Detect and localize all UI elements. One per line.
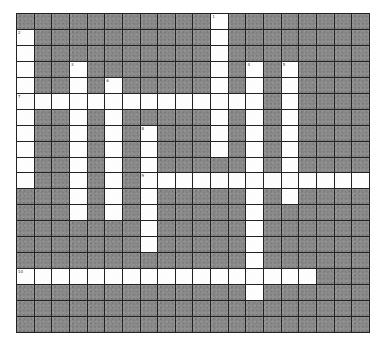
crossword-cell[interactable] bbox=[282, 158, 299, 173]
crossword-cell[interactable] bbox=[335, 173, 352, 188]
crossword-cell[interactable] bbox=[193, 94, 210, 109]
crossword-cell[interactable] bbox=[141, 237, 158, 252]
crossword-cell[interactable] bbox=[211, 142, 228, 157]
crossword-cell[interactable] bbox=[17, 126, 34, 141]
crossword-cell[interactable] bbox=[123, 94, 140, 109]
crossword-cell[interactable] bbox=[158, 173, 175, 188]
crossword-cell[interactable]: 4 bbox=[246, 62, 263, 77]
crossword-cell[interactable] bbox=[211, 110, 228, 125]
crossword-cell[interactable] bbox=[176, 94, 193, 109]
crossword-cell[interactable] bbox=[70, 189, 87, 204]
crossword-cell[interactable] bbox=[70, 158, 87, 173]
crossword-cell[interactable] bbox=[211, 269, 228, 284]
crossword-cell[interactable]: 7 bbox=[17, 94, 34, 109]
crossword-cell[interactable] bbox=[52, 269, 69, 284]
crossword-cell[interactable] bbox=[176, 173, 193, 188]
crossword-cell[interactable] bbox=[299, 173, 316, 188]
crossword-cell[interactable] bbox=[141, 158, 158, 173]
crossword-cell[interactable]: 10 bbox=[17, 269, 34, 284]
crossword-cell[interactable] bbox=[282, 269, 299, 284]
crossword-cell[interactable] bbox=[105, 189, 122, 204]
crossword-cell[interactable] bbox=[246, 189, 263, 204]
crossword-cell[interactable] bbox=[141, 221, 158, 236]
crossword-cell[interactable] bbox=[141, 269, 158, 284]
crossword-cell[interactable] bbox=[105, 94, 122, 109]
crossword-cell[interactable] bbox=[246, 78, 263, 93]
crossword-cell[interactable] bbox=[229, 173, 246, 188]
crossword-cell[interactable] bbox=[282, 189, 299, 204]
crossword-cell[interactable] bbox=[246, 221, 263, 236]
crossword-cell[interactable]: 3 bbox=[70, 62, 87, 77]
crossword-cell[interactable] bbox=[282, 126, 299, 141]
crossword-cell[interactable] bbox=[264, 269, 281, 284]
crossword-cell[interactable] bbox=[105, 110, 122, 125]
crossword-cell[interactable] bbox=[158, 94, 175, 109]
crossword-cell[interactable] bbox=[70, 205, 87, 220]
crossword-cell[interactable] bbox=[52, 94, 69, 109]
crossword-cell[interactable] bbox=[246, 173, 263, 188]
crossword-cell[interactable] bbox=[17, 158, 34, 173]
crossword-cell[interactable] bbox=[246, 142, 263, 157]
crossword-cell[interactable] bbox=[352, 173, 369, 188]
crossword-cell[interactable] bbox=[17, 173, 34, 188]
crossword-cell[interactable] bbox=[70, 94, 87, 109]
crossword-cell[interactable] bbox=[246, 285, 263, 300]
crossword-cell[interactable] bbox=[246, 126, 263, 141]
crossword-cell[interactable] bbox=[141, 189, 158, 204]
crossword-cell[interactable] bbox=[35, 94, 52, 109]
crossword-cell[interactable] bbox=[105, 126, 122, 141]
crossword-cell[interactable] bbox=[141, 94, 158, 109]
crossword-cell[interactable] bbox=[317, 173, 334, 188]
crossword-cell[interactable] bbox=[17, 62, 34, 77]
crossword-cell[interactable] bbox=[282, 78, 299, 93]
crossword-cell[interactable] bbox=[88, 269, 105, 284]
crossword-cell[interactable] bbox=[282, 142, 299, 157]
crossword-cell[interactable] bbox=[211, 62, 228, 77]
crossword-cell[interactable] bbox=[17, 46, 34, 61]
crossword-cell[interactable] bbox=[246, 253, 263, 268]
crossword-cell[interactable] bbox=[246, 158, 263, 173]
crossword-cell[interactable] bbox=[246, 237, 263, 252]
crossword-cell[interactable]: 6 bbox=[105, 78, 122, 93]
crossword-cell[interactable] bbox=[70, 126, 87, 141]
crossword-cell[interactable] bbox=[70, 110, 87, 125]
crossword-cell[interactable] bbox=[246, 110, 263, 125]
crossword-cell[interactable] bbox=[70, 173, 87, 188]
crossword-cell[interactable] bbox=[17, 110, 34, 125]
crossword-cell[interactable] bbox=[105, 269, 122, 284]
crossword-cell[interactable] bbox=[88, 94, 105, 109]
crossword-cell[interactable]: 9 bbox=[141, 173, 158, 188]
crossword-cell[interactable] bbox=[229, 269, 246, 284]
crossword-cell[interactable]: 1 bbox=[211, 14, 228, 29]
crossword-cell[interactable] bbox=[282, 94, 299, 109]
crossword-cell[interactable] bbox=[70, 269, 87, 284]
crossword-cell[interactable] bbox=[211, 94, 228, 109]
crossword-cell[interactable] bbox=[141, 205, 158, 220]
crossword-cell[interactable] bbox=[282, 110, 299, 125]
crossword-cell[interactable] bbox=[211, 46, 228, 61]
crossword-cell[interactable]: 2 bbox=[17, 30, 34, 45]
crossword-cell[interactable] bbox=[70, 78, 87, 93]
crossword-cell[interactable] bbox=[17, 78, 34, 93]
crossword-cell[interactable] bbox=[70, 142, 87, 157]
crossword-cell[interactable]: 5 bbox=[282, 62, 299, 77]
crossword-cell[interactable] bbox=[35, 269, 52, 284]
crossword-cell[interactable] bbox=[246, 269, 263, 284]
crossword-cell[interactable] bbox=[105, 142, 122, 157]
crossword-cell[interactable] bbox=[211, 126, 228, 141]
crossword-cell[interactable] bbox=[105, 158, 122, 173]
crossword-cell[interactable] bbox=[211, 78, 228, 93]
crossword-cell[interactable] bbox=[211, 30, 228, 45]
crossword-cell[interactable] bbox=[176, 269, 193, 284]
crossword-cell[interactable] bbox=[141, 142, 158, 157]
crossword-cell[interactable] bbox=[229, 94, 246, 109]
crossword-cell[interactable] bbox=[123, 269, 140, 284]
crossword-cell[interactable] bbox=[193, 269, 210, 284]
crossword-cell[interactable] bbox=[299, 269, 316, 284]
crossword-cell[interactable] bbox=[105, 205, 122, 220]
crossword-cell[interactable] bbox=[105, 173, 122, 188]
crossword-cell[interactable] bbox=[211, 173, 228, 188]
crossword-cell[interactable] bbox=[193, 173, 210, 188]
crossword-cell[interactable] bbox=[158, 269, 175, 284]
crossword-cell[interactable] bbox=[17, 142, 34, 157]
